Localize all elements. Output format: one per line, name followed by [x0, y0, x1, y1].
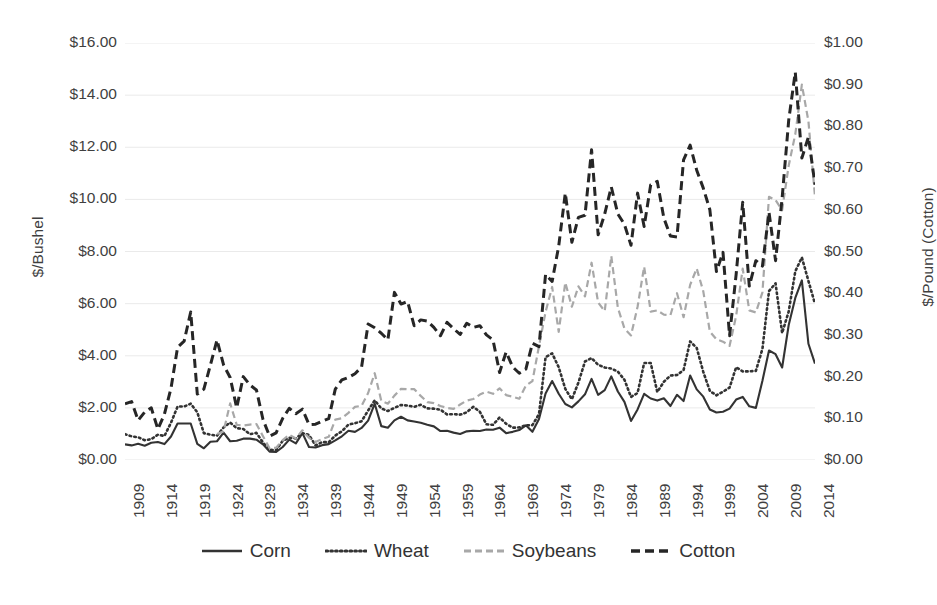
x-tick: 1929: [262, 484, 278, 518]
legend-swatch-dotted-icon: [325, 544, 367, 558]
y-tick-right: $0.40: [824, 284, 863, 300]
x-tick: 1979: [591, 484, 607, 518]
legend-label: Soybeans: [512, 540, 597, 562]
series-line-cotton: [125, 72, 815, 436]
x-tick: 1974: [558, 484, 574, 518]
legend-label: Corn: [250, 540, 291, 562]
legend-item-soybeans[interactable]: Soybeans: [463, 540, 597, 562]
x-tick: 1959: [460, 484, 476, 518]
x-tick: 1969: [525, 484, 541, 518]
chart-legend: CornWheatSoybeansCotton: [0, 540, 936, 562]
plot-area: [125, 43, 815, 460]
legend-item-corn[interactable]: Corn: [201, 540, 291, 562]
y-tick-left: $10.00: [70, 190, 117, 206]
x-tick: 1914: [164, 484, 180, 518]
y-tick-right: $0.30: [824, 326, 863, 342]
y-tick-left: $0.00: [78, 451, 117, 467]
x-tick: 1989: [657, 484, 673, 518]
x-tick: 2009: [788, 484, 804, 518]
y-axis-left-title: $/Bushel: [29, 187, 47, 307]
y-tick-right: $0.60: [824, 201, 863, 217]
y-tick-left: $2.00: [78, 399, 117, 415]
legend-swatch-solid-icon: [201, 544, 243, 558]
series-line-wheat: [125, 257, 815, 450]
x-tick: 2004: [755, 484, 771, 518]
y-tick-left: $4.00: [78, 347, 117, 363]
legend-label: Wheat: [374, 540, 429, 562]
y-tick-left: $16.00: [70, 34, 117, 50]
y-tick-left: $8.00: [78, 243, 117, 259]
x-tick: 1984: [624, 484, 640, 518]
y-tick-right: $0.50: [824, 243, 863, 259]
y-tick-right: $0.10: [824, 409, 863, 425]
x-tick: 1944: [361, 484, 377, 518]
x-tick: 1949: [394, 484, 410, 518]
x-tick: 1994: [690, 484, 706, 518]
y-tick-left: $6.00: [78, 295, 117, 311]
y-tick-left: $12.00: [70, 138, 117, 154]
legend-swatch-dashed-icon: [463, 544, 505, 558]
x-tick: 2014: [821, 484, 837, 518]
x-tick: 1934: [295, 484, 311, 518]
y-axis-right-title: $/Pound (Cotton): [919, 147, 937, 347]
y-tick-right: $0.80: [824, 117, 863, 133]
legend-label: Cotton: [679, 540, 735, 562]
x-tick: 1919: [197, 484, 213, 518]
y-tick-right: $0.00: [824, 451, 863, 467]
y-tick-right: $0.70: [824, 159, 863, 175]
x-tick: 1999: [722, 484, 738, 518]
legend-swatch-longdash-icon: [630, 544, 672, 558]
y-tick-right: $1.00: [824, 34, 863, 50]
y-tick-left: $14.00: [70, 86, 117, 102]
y-tick-right: $0.90: [824, 76, 863, 92]
legend-item-wheat[interactable]: Wheat: [325, 540, 429, 562]
plot-svg: [125, 43, 815, 460]
x-tick: 1939: [328, 484, 344, 518]
x-tick: 1909: [131, 484, 147, 518]
y-tick-right: $0.20: [824, 368, 863, 384]
legend-item-cotton[interactable]: Cotton: [630, 540, 735, 562]
x-tick: 1954: [427, 484, 443, 518]
x-tick: 1964: [492, 484, 508, 518]
x-tick: 1924: [230, 484, 246, 518]
series-line-corn: [125, 280, 815, 451]
